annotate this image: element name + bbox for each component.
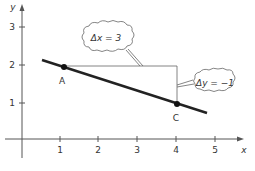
- x-tick-3: 3: [134, 145, 140, 155]
- x-arrow-icon: [237, 137, 244, 142]
- point-C-label: C: [173, 113, 179, 123]
- x-tick-5: 5: [212, 145, 218, 155]
- rise-callout-text: Δy = −1: [195, 78, 234, 88]
- run-callout: Δx = 3: [82, 21, 143, 67]
- y-tick-2: 2: [9, 60, 15, 70]
- point-A: [61, 64, 67, 70]
- y-ticks: 1 2 3 y: [9, 2, 25, 108]
- point-C: [174, 101, 180, 107]
- slope-diagram: 1 2 3 4 5 x 1 2 3 y A C: [0, 0, 255, 171]
- point-A-label: A: [59, 76, 66, 86]
- x-tick-4: 4: [173, 145, 179, 155]
- run-callout-text: Δx = 3: [90, 33, 122, 43]
- rise-callout: Δy = −1: [177, 68, 235, 91]
- y-axis-label: y: [9, 2, 16, 12]
- y-arrow-icon: [20, 4, 25, 11]
- x-tick-1: 1: [57, 145, 63, 155]
- x-axis-label: x: [240, 145, 247, 155]
- y-tick-1: 1: [9, 98, 15, 108]
- x-tick-2: 2: [95, 145, 101, 155]
- y-tick-3: 3: [9, 22, 15, 32]
